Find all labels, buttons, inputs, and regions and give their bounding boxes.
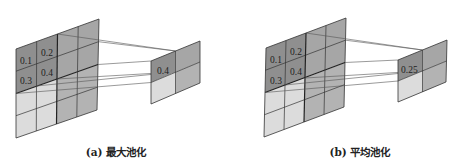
output-value: 0.25 <box>401 65 418 75</box>
cell-value: 0.4 <box>41 68 53 78</box>
panel-max-pooling: 0.1 0.2 0.3 0.4 0.4 <box>16 19 200 138</box>
cell-value: 0.3 <box>20 76 32 86</box>
output-feature-map: 0.4 <box>151 41 200 104</box>
cell-value: 0.3 <box>270 76 282 86</box>
pooling-diagram: 0.1 0.2 0.3 0.4 0.4 <box>0 0 462 167</box>
output-value: 0.4 <box>157 66 169 76</box>
cell-value: 0.4 <box>290 67 302 77</box>
cell-value: 0.1 <box>20 56 32 66</box>
cell-value: 0.2 <box>41 48 53 58</box>
caption-average-pooling: (b) 平均池化 <box>330 144 391 159</box>
input-feature-map: 0.1 0.2 0.3 0.4 <box>264 18 346 137</box>
output-feature-map: 0.25 <box>398 40 447 102</box>
caption-max-pooling: (a) 最大池化 <box>86 144 146 159</box>
input-feature-map: 0.1 0.2 0.3 0.4 <box>16 19 99 138</box>
panel-average-pooling: 0.1 0.2 0.3 0.4 0.25 <box>264 18 447 137</box>
cell-value: 0.1 <box>270 55 282 65</box>
cell-value: 0.2 <box>290 47 302 57</box>
